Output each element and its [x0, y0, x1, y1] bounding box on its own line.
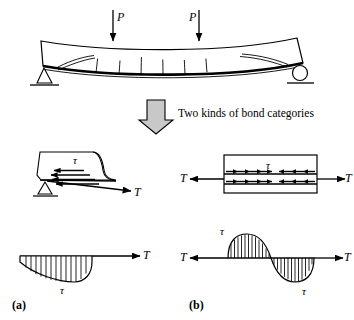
panel-a-tau-label: τ	[73, 155, 77, 166]
panel-b-force-label-left: T	[180, 172, 187, 184]
panel-a-caption: (a)	[12, 299, 26, 311]
load-label-left: P	[117, 11, 124, 23]
panel-b-force-label-right: T	[345, 172, 352, 184]
panel-a-dist-tau-label: τ	[60, 285, 64, 296]
flow-arrow-down	[139, 100, 173, 134]
panel-b-dist-force-label-left: T	[180, 251, 187, 263]
bond-categories-figure	[0, 0, 354, 320]
panel-a-force-arrow	[47, 181, 131, 191]
panel-b-dist-force-label-right: T	[344, 251, 351, 263]
panel-b-dist-tau-label-bottom: τ	[302, 286, 306, 297]
flow-caption: Two kinds of bond categories	[178, 107, 314, 119]
panel-a-force-label: T	[134, 186, 141, 198]
pin-support-left	[30, 68, 59, 85]
panel-a-dist-force-label: T	[143, 249, 150, 261]
panel-a-detail	[33, 152, 131, 196]
panel-a-distribution	[20, 256, 140, 282]
panel-b-distribution	[190, 234, 343, 282]
beam-assembly	[30, 10, 314, 85]
panel-a-pin-support	[33, 182, 58, 196]
panel-b-dist-tau-label-top: τ	[220, 226, 224, 237]
panel-b-caption: (b)	[189, 299, 204, 311]
load-label-right: P	[189, 11, 196, 23]
panel-b-tau-label: τ	[266, 160, 270, 171]
